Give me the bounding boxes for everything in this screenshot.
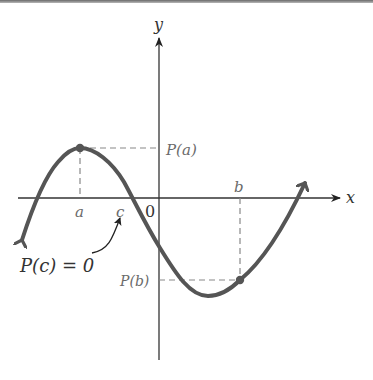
p-b-label: P(b) (119, 273, 149, 289)
p-a-label: P(a) (165, 141, 197, 159)
y-axis-label: y (153, 15, 164, 34)
b-label: b (234, 178, 244, 196)
c-label: c (116, 203, 125, 221)
origin-label: 0 (145, 202, 155, 221)
x-axis-label: x (346, 188, 355, 207)
point-b (236, 276, 244, 284)
ivt-diagram: y x 0 a c b P(a) P(b) P(c) = 0 (0, 0, 373, 380)
annotation-arrow (92, 218, 120, 253)
point-a (76, 144, 84, 152)
a-label: a (75, 203, 84, 221)
p-c-equals-zero-label: P(c) = 0 (19, 255, 94, 276)
